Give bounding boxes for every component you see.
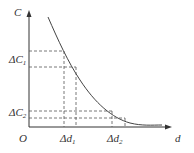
origin-label: O <box>19 132 27 144</box>
capacitance-distance-diagram: C d O ΔC1 ΔC2 Δd1 Δd2 <box>0 0 194 153</box>
delta-d1-label: Δd1 <box>59 132 75 146</box>
delta-c2-label: ΔC2 <box>8 106 27 120</box>
c-vs-d-curve <box>48 17 162 125</box>
diagram-canvas: C d O ΔC1 ΔC2 Δd1 Δd2 <box>0 0 194 153</box>
delta-d2-label: Δd2 <box>106 132 123 146</box>
y-axis-label: C <box>14 6 22 18</box>
delta-c1-label: ΔC1 <box>8 53 26 67</box>
y-axis-arrow-icon <box>27 10 32 17</box>
x-axis-arrow-icon <box>165 125 172 130</box>
x-axis-label: d <box>175 132 181 144</box>
